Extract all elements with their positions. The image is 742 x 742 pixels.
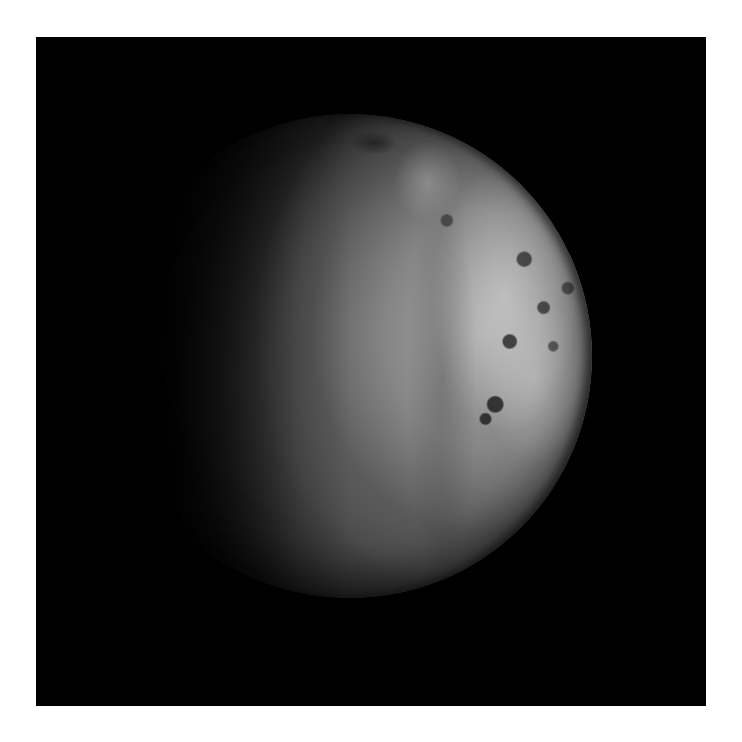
- moon-disk: [108, 114, 592, 598]
- photo-frame: [36, 37, 706, 706]
- limb-darkening: [108, 114, 592, 598]
